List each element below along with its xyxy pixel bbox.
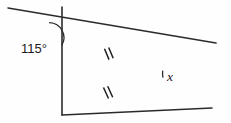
tick-lower-segment [104,86,113,98]
geometry-figure: 115° x [0,0,231,123]
tick-upper-segment [105,48,114,60]
upper-transversal-line [8,8,216,43]
angle-label-115: 115° [21,41,47,56]
geometry-canvas: 115° x [0,0,231,123]
lower-transversal-line [62,108,212,115]
angle-label-x: x [166,69,173,84]
